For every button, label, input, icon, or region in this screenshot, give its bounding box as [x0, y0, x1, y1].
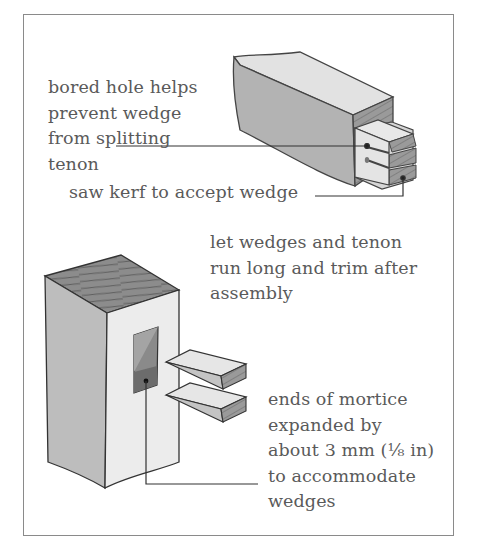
annotation-line: prevent wedge	[48, 101, 198, 127]
annotation-line: let wedges and tenon	[210, 230, 417, 256]
mortice-post	[45, 255, 179, 488]
annotation-line: wedges	[268, 489, 434, 515]
annotation-line: bored hole helps	[48, 75, 198, 101]
annotation-line: expanded by	[268, 413, 434, 439]
annotation-line: from splitting	[48, 126, 198, 152]
annotation-trim-after: let wedges and tenon run long and trim a…	[210, 230, 417, 307]
annotation-line: to accommodate	[268, 464, 434, 490]
annotation-line: assembly	[210, 281, 417, 307]
annotation-line: tenon	[48, 152, 198, 178]
tenon-piece	[233, 52, 416, 189]
annotation-mortice-ends: ends of mortice expanded by about 3 mm (…	[268, 387, 434, 515]
annotation-saw-kerf: saw kerf to accept wedge	[69, 180, 298, 206]
annotation-line: ends of mortice	[268, 387, 434, 413]
annotation-bored-hole: bored hole helps prevent wedge from spli…	[48, 75, 198, 177]
annotation-line: saw kerf to accept wedge	[69, 180, 298, 206]
annotation-line: run long and trim after	[210, 256, 417, 282]
annotation-line: about 3 mm (⅛ in)	[268, 438, 434, 464]
